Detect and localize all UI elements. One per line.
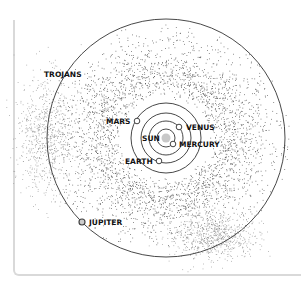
label-trojans: TROJANS — [44, 70, 82, 79]
sun-icon — [162, 134, 171, 143]
label-earth: EARTH — [125, 157, 153, 166]
label-venus: VENUS — [186, 123, 215, 132]
trojan-cluster-right — [149, 194, 271, 272]
label-mercury: MERCURY — [179, 140, 220, 149]
mercury-icon — [170, 141, 176, 147]
jupiter-icon — [79, 219, 85, 225]
venus-icon — [176, 124, 182, 130]
solar-system-diagram: TROJANS MARS VENUS SUN MERCURY EARTH JUP… — [0, 0, 301, 286]
label-sun: SUN — [142, 134, 160, 143]
label-jupiter: JUPITER — [88, 218, 122, 227]
mars-icon — [134, 118, 140, 124]
label-mars: MARS — [106, 117, 130, 126]
earth-icon — [156, 158, 162, 164]
